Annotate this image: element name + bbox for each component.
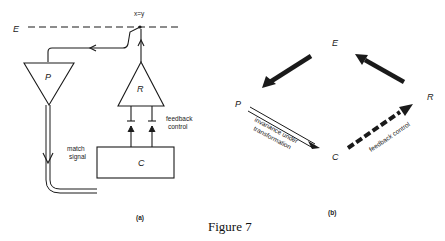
figure-7: E x=y P match signal C R feed (0, 0, 445, 241)
feedback-control-label: feedback control (368, 120, 412, 153)
signal-to-p-line (48, 27, 140, 62)
arrow-e-to-p (270, 56, 311, 82)
label-e-b: E (332, 38, 339, 48)
arrowhead-icon (308, 141, 320, 149)
signal-label: signal (69, 153, 87, 161)
equation-label: x=y (134, 10, 145, 18)
label-r-b: R (427, 92, 434, 102)
feedback-label: feedback (166, 115, 193, 122)
panel-a: E x=y P match signal C R feed (13, 10, 193, 222)
label-p: P (45, 72, 51, 82)
c-box (97, 147, 174, 178)
panel-a-label: (a) (136, 214, 144, 222)
label-c-b: C (332, 152, 339, 162)
label-c: C (138, 158, 145, 168)
control-label: control (168, 123, 188, 130)
arrow-down-icon (43, 153, 53, 163)
panel-b-label: (b) (328, 209, 336, 217)
match-label: match (67, 145, 85, 152)
arrow-up-icon (128, 126, 134, 132)
panel-b: E P R C invariance under transformation … (235, 38, 434, 217)
label-e: E (13, 24, 20, 34)
arrow-r-to-e (365, 60, 404, 82)
arrow-up-icon (149, 126, 155, 132)
figure-caption: Figure 7 (208, 219, 252, 234)
label-r: R (137, 84, 144, 94)
p-triangle (24, 63, 74, 105)
label-p-b: P (235, 99, 241, 109)
arrowhead-icon (399, 104, 413, 116)
